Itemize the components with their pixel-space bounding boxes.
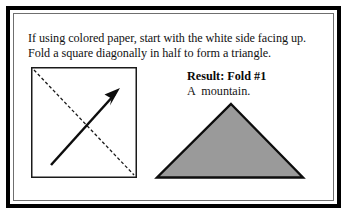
result-subtitle: A mountain. xyxy=(187,84,337,98)
result-caption-block: Result: Fold #1 A mountain. xyxy=(187,69,337,98)
triangle-result-diagram xyxy=(154,101,306,181)
square-fold-diagram xyxy=(31,67,137,178)
mountain-fold-triangle xyxy=(157,104,303,178)
result-title: Result: Fold #1 xyxy=(187,69,337,83)
figure-page: If using colored paper, start with the w… xyxy=(0,0,347,214)
instruction-text: If using colored paper, start with the w… xyxy=(28,31,328,60)
inner-frame-border: If using colored paper, start with the w… xyxy=(13,13,334,201)
figure-content: If using colored paper, start with the w… xyxy=(14,14,333,200)
outer-frame-border: If using colored paper, start with the w… xyxy=(6,6,341,208)
